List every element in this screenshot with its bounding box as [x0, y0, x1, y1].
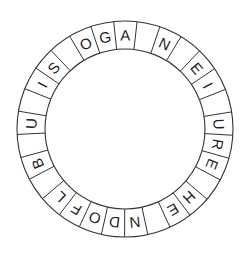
cell-divider — [134, 22, 137, 50]
ring-cell-letter: F — [68, 200, 85, 219]
cell-dividers — [17, 22, 233, 237]
ring-cell-letter: E — [165, 200, 182, 220]
ring-cell-letter: I — [34, 79, 51, 91]
ring-cell-letter: O — [86, 208, 103, 228]
ring-cell-letter: R — [208, 138, 227, 152]
cell-divider — [142, 207, 148, 234]
cell-letters: ANEIUREHENDOFLBUISOG — [22, 26, 227, 231]
ring-cell-letter: U — [22, 118, 40, 130]
ring-cell-letter: G — [98, 28, 113, 47]
inner-circle — [45, 49, 205, 209]
ring-cell-letter: S — [44, 59, 63, 78]
letter-ring-puzzle: ANEIUREHENDOFLBUISOG — [0, 0, 251, 259]
ring-cell-letter: E — [187, 59, 206, 78]
ring-cell-letter: N — [156, 34, 173, 54]
ring-cell-letter: A — [120, 26, 130, 43]
ring-cell-letter: E — [202, 156, 222, 172]
outer-circle — [17, 21, 233, 237]
ring-cell-letter: B — [28, 156, 47, 172]
ring-cell-letter: L — [51, 188, 69, 206]
cell-divider — [114, 22, 117, 50]
ring-diagram: ANEIUREHENDOFLBUISOG — [0, 0, 251, 259]
ring-cell-letter: N — [129, 213, 142, 231]
ring-cell-letter: U — [210, 118, 228, 130]
cell-divider — [17, 133, 45, 134]
cell-divider — [101, 207, 107, 234]
ring-cell-letter: I — [200, 79, 217, 91]
ring-cell-letter: D — [108, 213, 121, 231]
cell-divider — [205, 134, 233, 136]
ring-cell-letter: O — [77, 33, 95, 53]
cell-divider — [199, 89, 225, 99]
cell-divider — [18, 111, 46, 116]
cell-divider — [204, 112, 232, 116]
